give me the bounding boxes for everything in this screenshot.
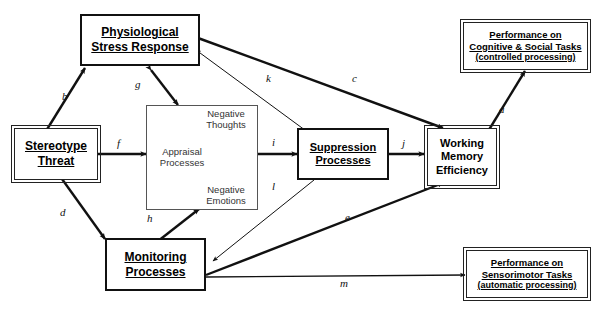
node-working-memory-line2: Memory bbox=[441, 150, 483, 163]
edge-label-e: e bbox=[345, 211, 350, 223]
node-stereotype-line2: Threat bbox=[38, 154, 75, 169]
node-monitoring-processes[interactable]: Monitoring Processes bbox=[105, 238, 206, 291]
node-sensorimotor-line1: Performance on bbox=[491, 257, 563, 269]
edge-label-c: c bbox=[352, 72, 357, 84]
negative-thoughts-line2: Thoughts bbox=[206, 119, 246, 130]
appraisal-center-line2: Processes bbox=[160, 157, 204, 168]
negative-emotions-line1: Negative bbox=[207, 184, 245, 195]
appraisal-negative-thoughts: Negative Thoughts bbox=[195, 108, 257, 131]
edge-label-b: b bbox=[62, 90, 68, 102]
node-physiological-line1: Physiological bbox=[101, 25, 178, 40]
edge-label-l: l bbox=[272, 180, 275, 192]
edge-d bbox=[62, 179, 105, 239]
node-cognitive-line3: (controlled processing) bbox=[475, 52, 575, 63]
negative-thoughts-line1: Negative bbox=[207, 108, 245, 119]
edge-g bbox=[151, 70, 178, 105]
node-physiological-line2: Stress Response bbox=[91, 40, 188, 55]
node-sensorimotor-line2: Sensorimotor Tasks bbox=[482, 269, 573, 281]
node-suppression-line1: Suppression bbox=[310, 141, 377, 154]
edge-m bbox=[206, 275, 465, 277]
edge-label-m: m bbox=[340, 277, 348, 289]
node-physiological-stress-response[interactable]: Physiological Stress Response bbox=[80, 14, 200, 66]
edge-label-a: a bbox=[499, 103, 505, 115]
node-sensorimotor-line3: (automatic processing) bbox=[477, 280, 576, 291]
node-cognitive-line1: Performance on bbox=[489, 29, 561, 41]
node-performance-sensorimotor-tasks[interactable]: Performance on Sensorimotor Tasks (autom… bbox=[466, 250, 588, 298]
edge-label-j: j bbox=[402, 137, 405, 149]
node-appraisal-processes-container[interactable]: Appraisal Processes Negative Thoughts Ne… bbox=[146, 105, 258, 210]
node-stereotype-line1: Stereotype bbox=[25, 139, 87, 154]
node-stereotype-threat[interactable]: Stereotype Threat bbox=[14, 128, 98, 180]
appraisal-center-line1: Appraisal bbox=[162, 146, 202, 157]
node-working-memory-efficiency[interactable]: Working Memory Efficiency bbox=[427, 128, 497, 186]
stereotype-threat-process-diagram: Physiological Stress Response Stereotype… bbox=[0, 0, 595, 314]
node-suppression-line2: Processes bbox=[315, 154, 370, 167]
edge-a bbox=[487, 71, 525, 133]
node-working-memory-line3: Efficiency bbox=[436, 164, 488, 177]
node-performance-cognitive-social-tasks[interactable]: Performance on Cognitive & Social Tasks … bbox=[463, 22, 588, 70]
edge-label-k: k bbox=[266, 72, 271, 84]
edge-label-d: d bbox=[60, 206, 66, 218]
node-monitoring-line1: Monitoring bbox=[125, 250, 187, 265]
node-suppression-processes[interactable]: Suppression Processes bbox=[297, 128, 389, 180]
appraisal-center-label: Appraisal Processes bbox=[151, 146, 213, 169]
node-cognitive-line2: Cognitive & Social Tasks bbox=[469, 41, 581, 53]
appraisal-negative-emotions: Negative Emotions bbox=[195, 184, 257, 207]
edge-label-g: g bbox=[135, 78, 141, 90]
edge-label-h: h bbox=[147, 212, 153, 224]
negative-emotions-line2: Emotions bbox=[206, 195, 246, 206]
node-working-memory-line1: Working bbox=[440, 137, 484, 150]
edge-label-i: i bbox=[272, 136, 275, 148]
node-monitoring-line2: Processes bbox=[125, 265, 185, 280]
edge-label-f: f bbox=[117, 137, 120, 149]
